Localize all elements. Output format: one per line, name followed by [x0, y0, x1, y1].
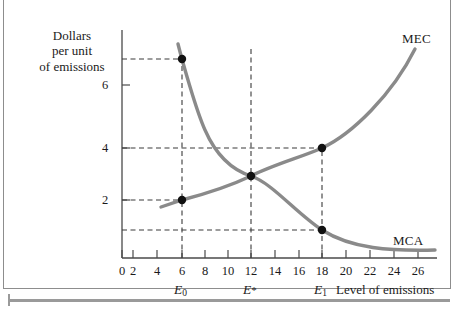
curve-label-mec: MEC — [402, 31, 431, 46]
annotation-e0-subscript: 0 — [182, 288, 187, 298]
point-mca-at-e0 — [178, 55, 186, 63]
annotation-estar-symbol: E — [243, 282, 251, 297]
bottom-rule — [8, 299, 450, 302]
x-tick-marks — [122, 250, 418, 258]
annotation-estar: E* — [243, 282, 257, 298]
annotation-e1-subscript: 1 — [322, 288, 327, 298]
x-tick-label-8: 8 — [196, 264, 214, 279]
annotation-e0: E0 — [174, 282, 187, 298]
x-tick-label-26: 26 — [407, 264, 429, 279]
curve-mca — [178, 44, 435, 250]
curve-mec — [161, 49, 415, 207]
bottom-rule-end-cap — [8, 294, 10, 306]
x-tick-label-16: 16 — [288, 264, 310, 279]
x-tick-label-6: 6 — [173, 264, 191, 279]
x-tick-label-12: 12 — [240, 264, 262, 279]
point-mec-at-e0 — [178, 196, 186, 204]
annotation-e1-symbol: E — [314, 282, 322, 297]
annotation-e0-symbol: E — [174, 282, 182, 297]
y-axis-title-line-1: Dollars — [26, 28, 118, 43]
curve-label-mca: MCA — [393, 233, 423, 248]
figure-container: Dollars per unit of emissions 6 4 2 0 2 … — [0, 0, 458, 316]
x-tick-label-2: 2 — [124, 264, 142, 279]
annotation-estar-subscript: * — [251, 284, 257, 296]
guide-lines — [122, 47, 322, 258]
annotation-e1: E1 — [314, 282, 327, 298]
point-equilibrium-estar — [247, 172, 255, 180]
x-tick-label-4: 4 — [148, 264, 166, 279]
point-mec-at-e1 — [318, 144, 326, 152]
x-tick-label-18: 18 — [311, 264, 333, 279]
x-tick-label-14: 14 — [264, 264, 286, 279]
x-tick-label-22: 22 — [359, 264, 381, 279]
y-axis-title-line-3: of emissions — [26, 59, 118, 74]
x-axis-title: Level of emissions — [336, 282, 434, 297]
y-tick-label-4: 4 — [96, 141, 114, 156]
x-tick-label-24: 24 — [383, 264, 405, 279]
y-tick-label-2: 2 — [96, 193, 114, 208]
y-tick-label-6: 6 — [96, 78, 114, 93]
y-axis-title-line-2: per unit — [26, 43, 118, 58]
x-tick-label-20: 20 — [335, 264, 357, 279]
point-mca-at-e1 — [318, 226, 326, 234]
x-tick-label-10: 10 — [217, 264, 239, 279]
y-axis-title: Dollars per unit of emissions — [26, 28, 118, 74]
